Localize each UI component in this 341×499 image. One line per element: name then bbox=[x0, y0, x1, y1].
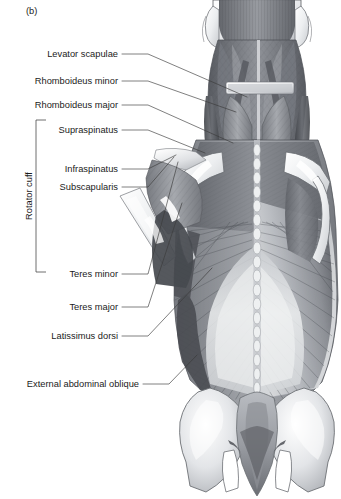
spine-midline bbox=[253, 140, 261, 422]
label-rhomboideus-major: Rhomboideus major bbox=[35, 100, 118, 110]
label-infraspinatus: Infraspinatus bbox=[65, 164, 119, 174]
panel-label: (b) bbox=[26, 6, 37, 16]
pelvis bbox=[180, 388, 335, 496]
label-teres-minor: Teres minor bbox=[69, 269, 118, 279]
label-external-abdominal-oblique: External abdominal oblique bbox=[27, 379, 139, 389]
label-latissimus-dorsi: Latissimus dorsi bbox=[51, 331, 118, 341]
anatomy-figure: Rotator cuff Levator scapulaeRhomboideus… bbox=[0, 0, 341, 499]
label-rhomboideus-minor: Rhomboideus minor bbox=[35, 76, 118, 86]
label-levator-scapulae: Levator scapulae bbox=[47, 49, 118, 59]
rotator-cuff-label: Rotator cuff bbox=[24, 172, 34, 220]
label-subscapularis: Subscapularis bbox=[60, 182, 119, 192]
label-supraspinatus: Supraspinatus bbox=[59, 125, 119, 135]
label-teres-major: Teres major bbox=[69, 302, 118, 312]
